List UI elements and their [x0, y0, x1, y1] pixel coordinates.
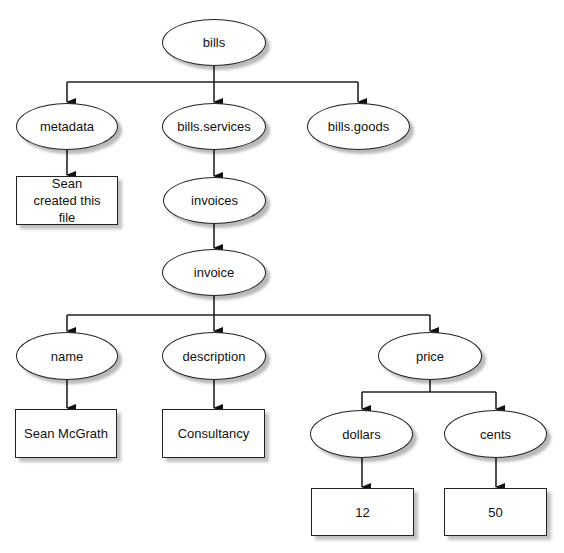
node-label: 12 — [355, 504, 369, 521]
connector-lines — [0, 0, 564, 553]
node-bills-goods: bills.goods — [307, 103, 410, 150]
node-invoices: invoices — [163, 177, 266, 224]
node-label: description — [183, 348, 246, 365]
node-name: name — [16, 332, 118, 380]
node-label: name — [51, 348, 84, 365]
node-label: invoice — [194, 264, 234, 281]
node-invoice: invoice — [162, 249, 266, 296]
node-label: dollars — [342, 426, 380, 443]
node-label: bills.goods — [328, 118, 389, 135]
node-metadata: metadata — [16, 103, 118, 150]
node-description: description — [162, 332, 266, 380]
node-label: cents — [480, 426, 511, 443]
node-cents: cents — [444, 410, 547, 458]
node-label: metadata — [40, 118, 94, 135]
node-description-value: Consultancy — [162, 409, 265, 458]
node-metadata-value: Sean created this file — [16, 176, 118, 225]
node-label: Sean McGrath — [24, 425, 108, 442]
node-label: bills.services — [177, 118, 251, 135]
node-bills: bills — [162, 19, 266, 66]
node-label: bills — [203, 34, 225, 51]
node-price: price — [378, 332, 482, 380]
node-label: Consultancy — [178, 425, 250, 442]
node-name-value: Sean McGrath — [15, 409, 117, 458]
node-bills-services: bills.services — [162, 103, 266, 150]
node-label: Sean created this file — [17, 175, 117, 226]
node-label: invoices — [191, 192, 238, 209]
node-dollars-value: 12 — [311, 488, 414, 536]
node-cents-value: 50 — [444, 488, 547, 536]
node-dollars: dollars — [310, 410, 413, 458]
node-label: 50 — [488, 504, 502, 521]
node-label: price — [416, 348, 444, 365]
